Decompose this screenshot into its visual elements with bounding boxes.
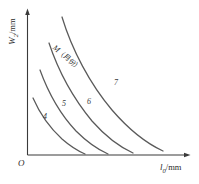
axes-group [25,9,190,158]
origin-label: O [18,159,25,168]
curve-label-4: 4 [43,113,47,121]
curve-5 [40,70,108,154]
x-axis-unit: /mm [166,162,182,172]
curve-4 [33,98,85,154]
plot-canvas [0,0,199,184]
curves-group [33,17,163,154]
y-axis-unit: /mm [7,18,17,34]
curve-label-6: 6 [87,98,91,106]
x-axis-label: l0/mm [160,163,181,174]
x-axis-arrowhead [184,153,191,158]
y-axis-symbol: W [7,37,17,45]
y-axis-label: W2/mm [8,9,19,55]
figure-container: W2/mm l0/mm O M（月份） 4 5 6 7 [0,0,199,184]
curve-label-7: 7 [114,79,118,87]
curve-7 [62,17,163,151]
curve-label-5: 5 [62,100,66,108]
y-axis-subscript: 2 [12,34,19,37]
y-axis-arrowhead [25,9,30,16]
